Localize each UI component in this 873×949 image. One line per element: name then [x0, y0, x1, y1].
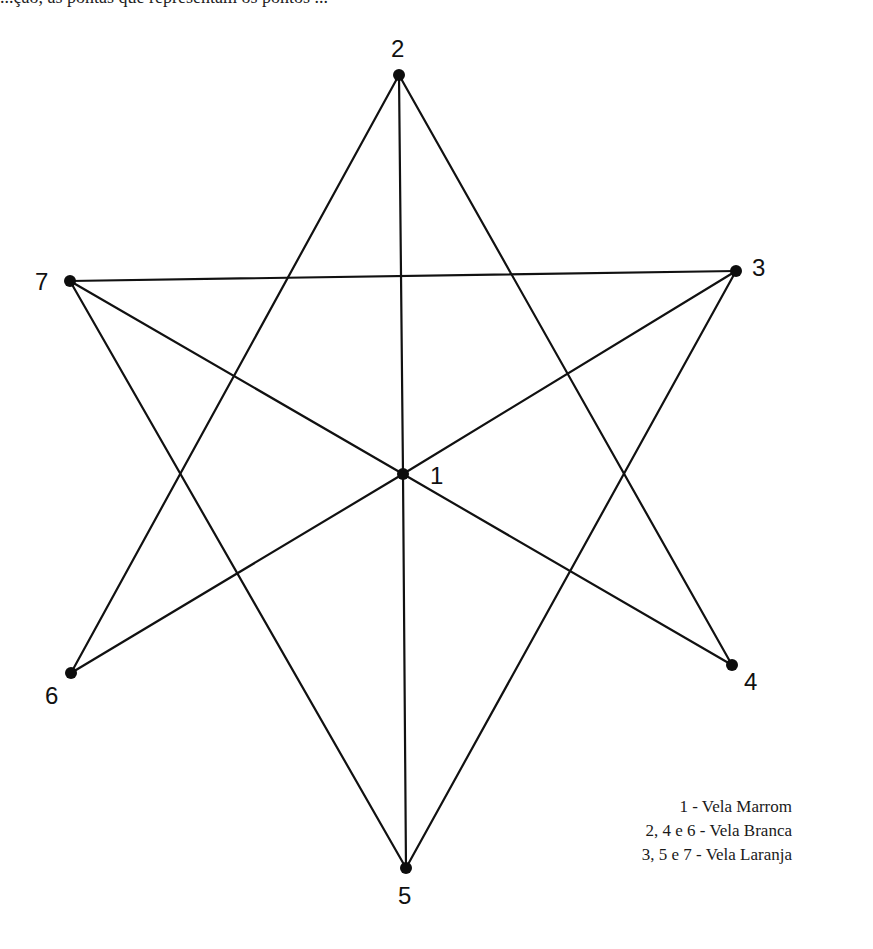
edge-1-5	[403, 474, 406, 868]
diagram-nodes	[64, 69, 742, 874]
node-label-7: 7	[35, 268, 48, 295]
edge-2-6	[71, 75, 399, 673]
edge-1-6	[71, 474, 403, 673]
edge-7-1	[70, 281, 403, 474]
node-2	[393, 69, 405, 81]
edge-1-4	[403, 474, 732, 665]
node-3	[730, 265, 742, 277]
node-label-4: 4	[744, 668, 757, 695]
node-label-2: 2	[391, 35, 404, 62]
node-label-3: 3	[752, 254, 765, 281]
node-6	[65, 667, 77, 679]
legend-item-white-candle: 2, 4 e 6 - Vela Branca	[642, 819, 792, 843]
legend: 1 - Vela Marrom 2, 4 e 6 - Vela Branca 3…	[642, 795, 792, 867]
node-label-1: 1	[430, 462, 443, 489]
edge-3-5	[406, 271, 736, 868]
edge-2-1	[399, 75, 403, 474]
node-label-6: 6	[45, 682, 58, 709]
node-5	[400, 862, 412, 874]
node-label-5: 5	[398, 882, 411, 909]
node-7	[64, 275, 76, 287]
legend-item-brown-candle: 1 - Vela Marrom	[642, 795, 792, 819]
legend-item-orange-candle: 3, 5 e 7 - Vela Laranja	[642, 843, 792, 867]
edge-7-3	[70, 271, 736, 281]
edge-3-1	[403, 271, 736, 474]
node-4	[726, 659, 738, 671]
node-1	[397, 468, 409, 480]
